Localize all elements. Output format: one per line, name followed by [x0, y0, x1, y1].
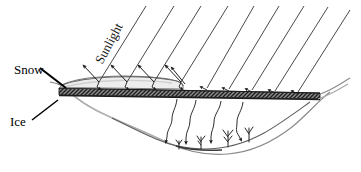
sunlight-ray [298, 10, 350, 92]
sunlight-ray [229, 6, 279, 89]
sunlight-ray [181, 6, 228, 82]
sunlight-ray [252, 6, 304, 90]
scene-illustration: Sunlight Snow Ice [0, 0, 361, 172]
sunlight-ray [275, 7, 328, 91]
snow-leader-line [40, 68, 66, 88]
ice-leader-line [32, 100, 58, 120]
sunlight-ray [154, 6, 201, 82]
sunlight-ray [207, 6, 254, 88]
label-ice: Ice [10, 114, 26, 129]
label-sunlight: Sunlight [92, 20, 126, 66]
label-snow: Snow [14, 62, 44, 77]
diagram-root: Sunlight Snow Ice [0, 0, 361, 172]
sunlight-ray [127, 6, 174, 82]
snow-layer [60, 76, 183, 89]
